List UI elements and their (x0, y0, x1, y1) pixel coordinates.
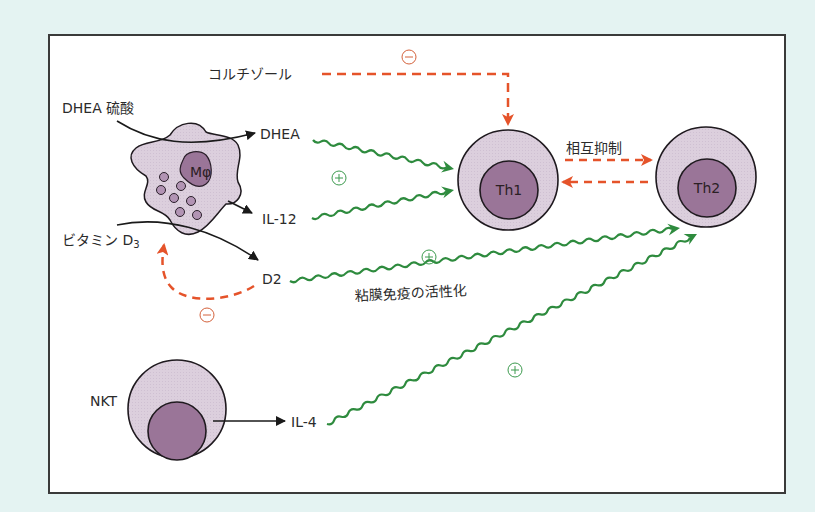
macrophage-label: Mφ (190, 164, 211, 180)
nkt-cell (128, 360, 226, 460)
il12-secretion-arrow (228, 201, 252, 213)
th1-label: Th1 (495, 182, 522, 198)
minus-sign-icon (200, 308, 214, 322)
granule (160, 173, 169, 182)
mucosal-activation-label: 粘膜免疫の活性化 (354, 282, 467, 304)
dhea-to-th1-wave (313, 140, 446, 168)
cortisol-inhibition-arrow (322, 74, 508, 124)
dhea-label: DHEA (260, 126, 300, 142)
minus-sign-icon (402, 50, 416, 64)
th1-cell: Th1 (458, 130, 558, 230)
plus-sign-icon (422, 250, 436, 264)
il4-label: IL-4 (291, 414, 317, 430)
immune-regulation-diagram: コルチゾール DHEA 硫酸 Mφ DHEA IL-12 ビタミン D3 D2 (0, 0, 815, 512)
il12-to-th1-wave (312, 192, 446, 220)
d2-feedback-inhibition-arrow (162, 245, 254, 299)
cortisol-label: コルチゾール (208, 66, 292, 82)
dhea-sulfate-label: DHEA 硫酸 (62, 100, 134, 116)
mutual-inhibition-label: 相互抑制 (566, 140, 622, 156)
plus-sign-icon (508, 363, 522, 377)
d2-to-th2-wave (290, 228, 672, 282)
nkt-label: NKT (90, 393, 118, 409)
il12-label: IL-12 (262, 211, 297, 227)
vitamin-d3-label: ビタミン D3 (62, 232, 140, 250)
th2-label: Th2 (693, 180, 720, 196)
plus-sign-icon (332, 171, 346, 185)
d2-label: D2 (262, 271, 282, 287)
th2-cell: Th2 (656, 127, 756, 227)
